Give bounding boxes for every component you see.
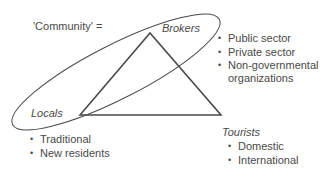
list-item: Traditional (30, 133, 110, 147)
list-item: Private sector (218, 46, 319, 60)
list-item: Non-governmental (218, 59, 319, 73)
locals-label: Locals (31, 107, 63, 120)
locals-list: Traditional New residents (30, 133, 110, 160)
list-item: New residents (30, 147, 110, 161)
tourists-label: Tourists (222, 126, 260, 139)
community-label: 'Community' = (33, 20, 102, 33)
tourists-list: Domestic International (228, 140, 299, 167)
relationship-triangle (80, 33, 221, 115)
brokers-list-continuation: organizations (228, 72, 293, 85)
brokers-label: Brokers (162, 22, 200, 35)
list-item: International (228, 154, 299, 168)
list-item: Domestic (228, 140, 299, 154)
list-item: Public sector (218, 32, 319, 46)
brokers-list: Public sector Private sector Non-governm… (218, 32, 319, 73)
